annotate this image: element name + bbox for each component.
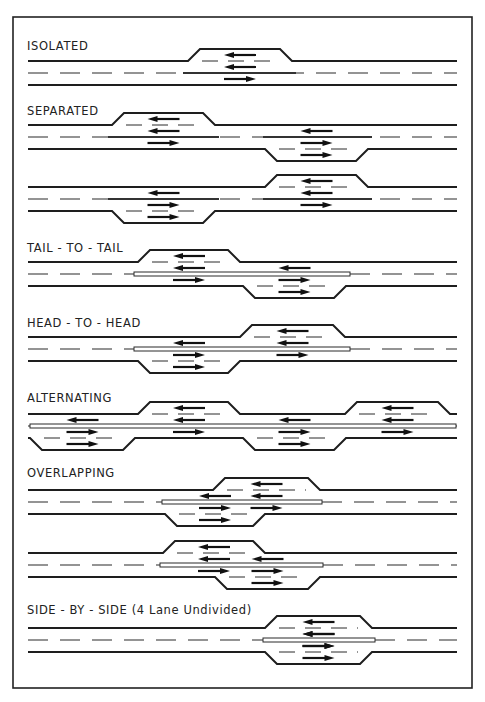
- road-edge-top: [28, 175, 457, 187]
- arrow-left-icon: [224, 52, 256, 58]
- arrow-left-icon: [303, 631, 335, 637]
- arrow-head: [173, 405, 183, 411]
- painted-median: [30, 424, 456, 428]
- road-edge-bottom: [28, 652, 457, 664]
- arrow-right-icon: [252, 568, 284, 574]
- arrow-right-icon: [173, 364, 205, 370]
- arrow-head: [279, 417, 289, 423]
- arrow-head: [173, 265, 183, 271]
- arrow-right-icon: [173, 429, 205, 435]
- arrow-right-icon: [301, 202, 333, 208]
- arrow-head: [277, 340, 287, 346]
- arrow-head: [299, 352, 309, 358]
- arrow-head: [221, 517, 231, 523]
- arrow-right-icon: [251, 505, 283, 511]
- title-tail-to-tail: TAIL - TO - TAIL: [26, 241, 123, 255]
- arrow-right-icon: [173, 352, 205, 358]
- arrow-head: [277, 328, 287, 334]
- arrow-head: [325, 643, 335, 649]
- arrow-head: [173, 417, 183, 423]
- road-diagram-alternating: [28, 402, 457, 450]
- arrow-head: [301, 190, 311, 196]
- arrow-head: [220, 568, 230, 574]
- arrow-head: [199, 493, 209, 499]
- arrow-left-icon: [252, 556, 284, 562]
- arrow-head: [148, 128, 158, 134]
- arrow-right-icon: [198, 568, 230, 574]
- arrow-head: [273, 505, 283, 511]
- arrow-head: [323, 202, 333, 208]
- road-edge-bottom: [28, 361, 457, 373]
- arrow-head: [323, 152, 333, 158]
- arrow-right-icon: [303, 643, 335, 649]
- arrow-head: [224, 52, 234, 58]
- arrow-head: [148, 116, 158, 122]
- passing-lane-configurations-figure: ISOLATED SEPARATED TAIL - TO - TAIL HEAD…: [0, 0, 485, 702]
- arrow-left-icon: [148, 128, 180, 134]
- arrow-head: [252, 556, 262, 562]
- arrow-left-icon: [224, 64, 256, 70]
- arrow-right-icon: [279, 429, 311, 435]
- arrow-head: [195, 352, 205, 358]
- arrow-right-icon: [382, 429, 414, 435]
- arrow-head: [148, 190, 158, 196]
- arrow-head: [301, 289, 311, 295]
- arrow-left-icon: [277, 328, 309, 334]
- arrow-right-icon: [279, 277, 311, 283]
- arrow-left-icon: [173, 265, 205, 271]
- arrow-left-icon: [251, 493, 283, 499]
- arrow-left-icon: [301, 190, 333, 196]
- title-separated: SEPARATED: [27, 104, 99, 118]
- arrow-left-icon: [279, 265, 311, 271]
- arrow-left-icon: [148, 190, 180, 196]
- arrow-head: [173, 253, 183, 259]
- arrow-head: [382, 405, 392, 411]
- arrow-head: [404, 429, 414, 435]
- arrow-left-icon: [382, 417, 414, 423]
- road-edge-bottom: [28, 514, 457, 526]
- arrow-left-icon: [199, 493, 231, 499]
- arrow-left-icon: [198, 556, 230, 562]
- road-edge-top: [28, 616, 457, 628]
- title-head-to-head: HEAD - TO - HEAD: [27, 316, 141, 330]
- arrow-head: [301, 277, 311, 283]
- arrow-head: [195, 429, 205, 435]
- arrow-head: [301, 441, 311, 447]
- road-diagram-isolated: [28, 49, 457, 85]
- arrow-head: [198, 544, 208, 550]
- figure-canvas: ISOLATED SEPARATED TAIL - TO - TAIL HEAD…: [0, 0, 485, 702]
- painted-median: [263, 638, 375, 642]
- arrow-head: [67, 417, 77, 423]
- arrow-right-icon: [67, 441, 99, 447]
- road-diagram-overlapping: [28, 478, 457, 526]
- road-edge-bottom: [28, 286, 457, 298]
- arrow-head: [301, 178, 311, 184]
- arrow-left-icon: [303, 619, 335, 625]
- arrow-left-icon: [251, 481, 283, 487]
- painted-median: [134, 347, 350, 351]
- arrow-head: [198, 556, 208, 562]
- road-diagram-overlapping: [28, 541, 457, 589]
- arrow-left-icon: [301, 178, 333, 184]
- arrow-head: [279, 265, 289, 271]
- arrow-right-icon: [303, 655, 335, 661]
- arrow-right-icon: [301, 152, 333, 158]
- arrow-head: [323, 140, 333, 146]
- arrow-right-icon: [148, 214, 180, 220]
- arrow-right-icon: [67, 429, 99, 435]
- arrow-head: [301, 128, 311, 134]
- arrow-head: [325, 655, 335, 661]
- arrow-left-icon: [279, 417, 311, 423]
- arrow-head: [251, 493, 261, 499]
- arrow-head: [89, 429, 99, 435]
- arrow-right-icon: [301, 140, 333, 146]
- arrow-head: [303, 631, 313, 637]
- arrow-head: [195, 364, 205, 370]
- arrow-right-icon: [279, 289, 311, 295]
- title-alternating: ALTERNATING: [27, 391, 112, 405]
- arrow-left-icon: [173, 405, 205, 411]
- arrow-left-icon: [173, 417, 205, 423]
- road-diagram-head-to-head: [28, 325, 457, 373]
- arrow-head: [382, 417, 392, 423]
- road-diagram-separated: [28, 113, 457, 161]
